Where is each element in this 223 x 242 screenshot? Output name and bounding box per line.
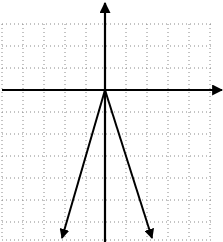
- axes: [2, 3, 222, 242]
- coordinate-graph: [0, 0, 223, 242]
- right-branch-line: [105, 90, 152, 238]
- dotted-grid: [2, 24, 212, 240]
- left-branch-line: [62, 90, 105, 238]
